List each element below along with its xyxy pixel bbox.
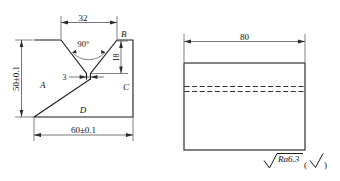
edge-label-b: B [121,29,127,39]
dim-root-face-text: 18 [112,54,121,62]
groove-angle-text: 90° [78,39,90,49]
dim-root-gap-text: 3 [63,73,67,82]
dim-50-arrow-bottom [20,110,24,117]
dim-18-arrow-bottom [119,67,123,74]
technical-drawing-canvas: 90° 32 18 3 50±0.1 [0,0,340,181]
edge-label-a: A [39,80,46,90]
roughness-tick-icon [264,154,277,169]
dim-32-arrow-right [110,21,117,25]
dim-50-arrow-top [20,40,24,47]
dim-3-arrow-right [91,75,98,79]
edge-label-c: C [123,82,130,92]
front-view-v-groove: 90° 32 18 3 50±0.1 [11,13,133,142]
roughness-tick-bracket-icon [310,154,323,168]
dim-plate-length-text: 80 [240,32,250,42]
edge-label-d: D [79,105,87,115]
dim-60-arrow-right [126,133,133,137]
plate-rectangle [184,63,305,150]
side-view-plate: 80 [184,32,305,151]
dim-groove-width-text: 32 [79,13,88,23]
groove-angle-arc [73,53,106,60]
dim-18-arrow-top [119,41,123,48]
dim-80-arrow-left [184,40,191,44]
dim-overall-height-text: 50±0.1 [11,66,21,91]
surface-finish-symbol: Ra6.3 ( ) [264,154,327,171]
roughness-bracket-open: ( [304,160,307,170]
angle-arrow-right [101,50,106,54]
dim-32-arrow-left [61,21,68,25]
roughness-value-text: Ra6.3 [277,154,300,164]
dim-60-arrow-left [34,133,41,137]
dim-overall-width-text: 60±0.1 [71,125,96,135]
dim-80-arrow-right [298,40,305,44]
dim-3-arrow-left [80,75,87,79]
roughness-bracket-close: ) [324,160,327,170]
